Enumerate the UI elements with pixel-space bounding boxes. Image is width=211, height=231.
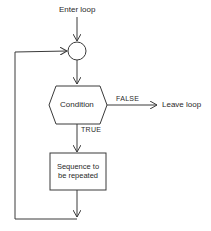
- loop-back-arrow: [15, 51, 67, 52]
- flowchart-canvas: [0, 0, 211, 231]
- loop-back-path: [15, 52, 77, 219]
- false-label: FALSE: [116, 95, 139, 102]
- leave-loop-label: Leave loop: [162, 100, 201, 109]
- true-label: TRUE: [81, 126, 101, 133]
- sequence-label-line1: Sequence to: [50, 162, 106, 171]
- sequence-label: Sequence to be repeated: [50, 162, 106, 180]
- junction-circle: [68, 42, 86, 60]
- sequence-label-line2: be repeated: [50, 171, 106, 180]
- enter-loop-label: Enter loop: [59, 5, 95, 14]
- condition-label: Condition: [60, 100, 94, 109]
